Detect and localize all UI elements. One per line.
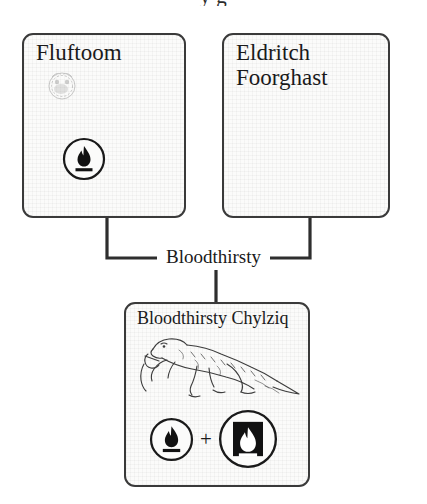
faded-creature-thumbnail-image bbox=[40, 69, 84, 103]
offspring-element-combination: + bbox=[0, 408, 427, 470]
connector-label-text: Bloodthirsty bbox=[157, 246, 270, 267]
parent-card-title: Eldritch Foorghast bbox=[224, 35, 388, 90]
flame-torch-dark-icon[interactable] bbox=[218, 409, 278, 469]
flame-torch-light-icon[interactable] bbox=[149, 417, 194, 462]
flame-torch-light-icon[interactable] bbox=[62, 137, 106, 181]
parent-card-title: Fluftoom bbox=[24, 35, 184, 66]
plus-operator: + bbox=[198, 429, 214, 450]
offspring-card-title: Bloodthirsty Chylziq bbox=[126, 304, 308, 328]
lizard-creature-illustration bbox=[131, 332, 307, 408]
connector-label: Bloodthirsty bbox=[0, 246, 427, 268]
